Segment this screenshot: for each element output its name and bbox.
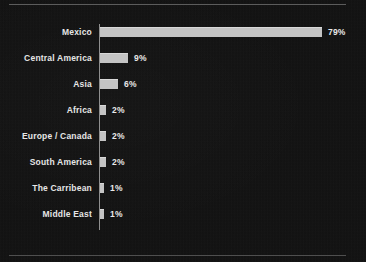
value-label: 9% — [134, 52, 147, 64]
bar-mexico — [100, 27, 322, 37]
value-label: 2% — [112, 104, 125, 116]
bar-middle-east — [100, 209, 104, 219]
value-label: 2% — [112, 130, 125, 142]
bar-row: Central America 9% — [0, 52, 366, 64]
bar-row: Asia 6% — [0, 78, 366, 90]
bar-row: The Carribean 1% — [0, 182, 366, 194]
chart-screenshot: Mexico 79% Central America 9% Asia 6% Af… — [0, 0, 366, 262]
category-label: Europe / Canada — [0, 130, 92, 142]
bar-row: Mexico 79% — [0, 26, 366, 38]
bar-chart-plot-area: Mexico 79% Central America 9% Asia 6% Af… — [0, 0, 366, 262]
bar-row: Europe / Canada 2% — [0, 130, 366, 142]
category-label: Africa — [0, 104, 92, 116]
category-label: Central America — [0, 52, 92, 64]
category-label: South America — [0, 156, 92, 168]
category-label: The Carribean — [0, 182, 92, 194]
bar-row: Africa 2% — [0, 104, 366, 116]
bar-asia — [100, 79, 118, 89]
value-label: 2% — [112, 156, 125, 168]
value-label: 6% — [124, 78, 137, 90]
category-label: Middle East — [0, 208, 92, 220]
bar-south-america — [100, 157, 106, 167]
bar-row: South America 2% — [0, 156, 366, 168]
bar-africa — [100, 105, 106, 115]
bar-central-america — [100, 53, 128, 63]
value-label: 79% — [328, 26, 346, 38]
bottom-divider-rule — [9, 255, 346, 256]
value-label: 1% — [110, 182, 123, 194]
category-label: Mexico — [0, 26, 92, 38]
bar-row: Middle East 1% — [0, 208, 366, 220]
value-label: 1% — [110, 208, 123, 220]
bar-europe-canada — [100, 131, 106, 141]
bar-the-carribean — [100, 183, 104, 193]
category-label: Asia — [0, 78, 92, 90]
